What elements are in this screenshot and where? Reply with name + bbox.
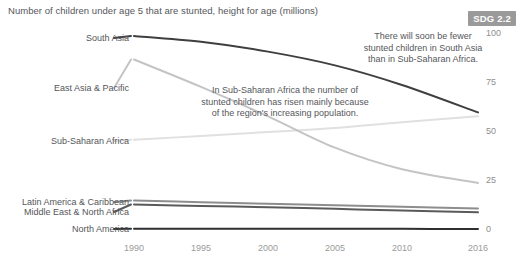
y-axis-tick-75: 75: [486, 77, 496, 87]
series-label-south-asia: South Asia: [0, 33, 129, 43]
annotation-sub-saharan: In Sub-Saharan Africa the number of stun…: [182, 85, 388, 120]
x-axis-tick-2000: 2000: [258, 243, 278, 253]
x-axis-tick-2016: 2016: [468, 243, 488, 253]
series-label-east-asia-pacific: East Asia & Pacific: [0, 83, 129, 93]
annotation-south-asia: There will soon be fewer stunted childre…: [348, 31, 498, 66]
series-label-text: South Asia: [86, 33, 129, 43]
y-axis-tick-25: 25: [486, 175, 496, 185]
y-axis-tick-50: 50: [486, 126, 496, 136]
y-axis-tick-0: 0: [486, 224, 491, 234]
x-axis: 199019952000200520102016: [0, 243, 523, 257]
series-label-latin-america-caribbean: Latin America & Caribbean: [0, 197, 129, 207]
series-label-middle-east-north-africa: Middle East & North Africa: [0, 207, 129, 217]
x-axis-tick-2005: 2005: [325, 243, 345, 253]
page-title: Number of children under age 5 that are …: [8, 5, 318, 16]
series-label-north-america: North America: [0, 224, 129, 234]
series-line-sub-saharan-africa: [134, 116, 478, 140]
series-label-text: North America: [72, 224, 129, 234]
x-axis-tick-2010: 2010: [392, 243, 412, 253]
series-line-middle-east-north-africa: [134, 205, 478, 213]
chart-page: Number of children under age 5 that are …: [0, 0, 523, 263]
x-axis-tick-1995: 1995: [191, 243, 211, 253]
series-label-text: East Asia & Pacific: [54, 83, 129, 93]
series-label-text: Middle East & North Africa: [24, 207, 129, 217]
series-label-text: Latin America & Caribbean: [22, 197, 129, 207]
series-label-text: Sub-Saharan Africa: [51, 136, 129, 146]
x-axis-tick-1990: 1990: [124, 243, 144, 253]
series-label-sub-saharan-africa: Sub-Saharan Africa: [0, 136, 129, 146]
